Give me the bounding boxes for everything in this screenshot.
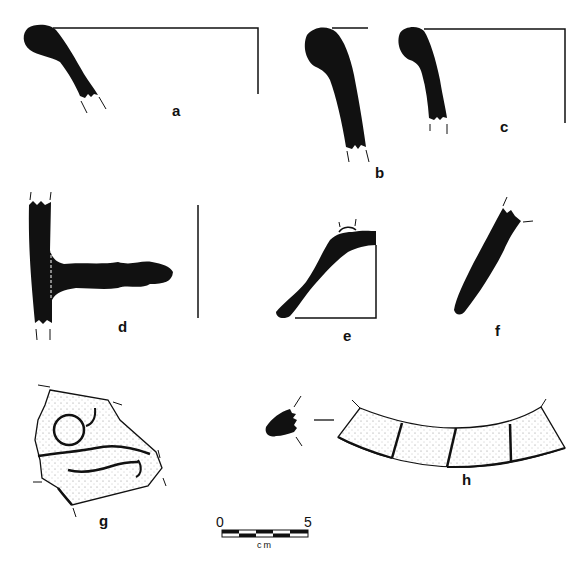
label-h: h bbox=[462, 471, 471, 488]
sherd-h: h bbox=[266, 396, 565, 488]
sherd-g: g bbox=[33, 385, 166, 529]
scale-end-label: 5 bbox=[304, 514, 312, 530]
sherd-d: d bbox=[29, 192, 198, 340]
scale-start-label: 0 bbox=[216, 514, 224, 530]
scale-bar: 0 5 cm bbox=[216, 514, 312, 550]
sherd-b-profile bbox=[305, 27, 366, 149]
label-d: d bbox=[118, 318, 127, 335]
sherd-e-profile bbox=[276, 231, 376, 318]
label-e: e bbox=[343, 327, 351, 344]
sherd-h-section bbox=[266, 409, 297, 437]
label-f: f bbox=[495, 322, 501, 339]
sherd-a-profile bbox=[24, 25, 98, 98]
sherd-a: a bbox=[24, 25, 258, 119]
sherd-c-profile bbox=[398, 27, 447, 120]
pottery-plate: a b c d e f bbox=[0, 0, 588, 569]
plate-drawing: a b c d e f bbox=[0, 0, 588, 569]
sherd-f: f bbox=[454, 197, 533, 339]
sherd-d-profile bbox=[29, 201, 173, 324]
label-c: c bbox=[500, 118, 508, 135]
label-a: a bbox=[172, 102, 181, 119]
sherd-c: c bbox=[398, 27, 565, 135]
label-g: g bbox=[99, 512, 108, 529]
sherd-f-profile bbox=[454, 208, 521, 315]
sherd-b: b bbox=[305, 27, 384, 181]
scale-unit: cm bbox=[257, 540, 273, 550]
label-b: b bbox=[375, 164, 384, 181]
sherd-e: e bbox=[276, 219, 376, 344]
